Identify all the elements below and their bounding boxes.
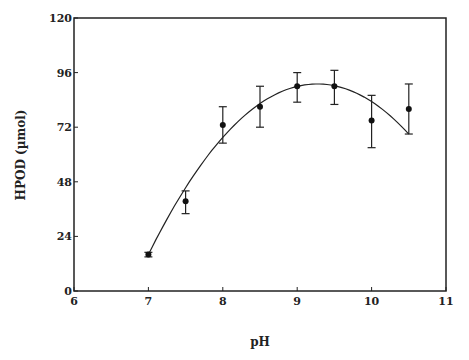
plot-frame [74,18,446,291]
data-point [256,86,264,127]
data-point [330,70,338,104]
y-tick-label: 48 [57,176,73,189]
y-tick-label: 96 [57,67,73,80]
data-point [405,84,413,134]
y-tick-label: 120 [49,12,72,25]
data-point [182,191,190,214]
chart: 67891011024487296120 pH HPOD (µmol) [0,0,469,360]
x-axis-label: pH [250,335,270,349]
fit-curve [148,84,408,255]
data-points [144,70,412,257]
y-tick-label: 24 [57,230,73,243]
axes: 67891011024487296120 [49,12,454,308]
x-tick-label: 11 [438,295,453,308]
data-point [219,107,227,143]
y-tick-label: 72 [57,121,72,134]
y-tick-label: 0 [64,285,72,298]
x-tick-label: 10 [364,295,380,308]
data-point [144,252,152,258]
y-axis-label: HPOD (µmol) [14,110,28,201]
x-tick-label: 7 [145,295,153,308]
x-tick-label: 8 [219,295,227,308]
x-tick-label: 9 [293,295,301,308]
